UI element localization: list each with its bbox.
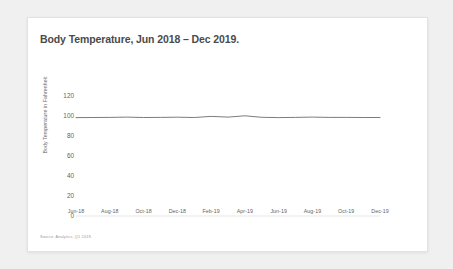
- x-axis-tick-label: Dec-18: [169, 208, 186, 214]
- x-axis-tick-labels: Jun-18Aug-18Oct-18Dec-18Feb-19Apr-19Jun-…: [28, 208, 428, 220]
- page-background: Body Temperature, Jun 2018 – Dec 2019. B…: [0, 0, 453, 269]
- chart-plot-area: Body Temperature in Fahrenheit 120100806…: [28, 18, 428, 252]
- x-axis-tick-label: Dec-19: [371, 208, 388, 214]
- temperature-line: [76, 116, 380, 118]
- x-axis-tick-label: Jun-18: [68, 208, 85, 214]
- source-note: Source: Analytics, Q1 2019.: [40, 234, 92, 239]
- chart-card: Body Temperature, Jun 2018 – Dec 2019. B…: [27, 17, 428, 252]
- x-axis-tick-label: Oct-18: [135, 208, 151, 214]
- x-axis-tick-label: Aug-19: [304, 208, 321, 214]
- x-axis-tick-label: Apr-19: [237, 208, 253, 214]
- x-axis-tick-label: Feb-19: [203, 208, 220, 214]
- x-axis-tick-label: Aug-18: [101, 208, 118, 214]
- x-axis-tick-label: Oct-19: [338, 208, 354, 214]
- x-axis-tick-label: Jun-19: [270, 208, 287, 214]
